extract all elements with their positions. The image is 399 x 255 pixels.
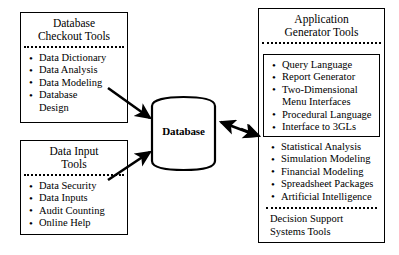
- list-item: Report Generator: [272, 71, 377, 83]
- list-item: Audit Counting: [29, 205, 125, 217]
- list-item: Two-Dimensional: [272, 84, 377, 96]
- list-item: Procedural Language: [272, 109, 377, 121]
- list-item-continuation: Design: [29, 102, 125, 114]
- diagram-canvas: Database Checkout Tools Data Dictionary …: [0, 0, 399, 255]
- database-cylinder-label: Database: [150, 125, 217, 137]
- list-item: Data Inputs: [29, 192, 125, 204]
- list-item: Interface to 3GLs: [272, 121, 377, 133]
- database-checkout-tools-list: Data Dictionary Data Analysis Data Model…: [21, 48, 127, 117]
- list-item: Spreadsheet Packages: [271, 178, 378, 190]
- decision-support-systems-label: Decision Support Systems Tools: [263, 209, 380, 240]
- database-checkout-tools-title: Database Checkout Tools: [21, 13, 127, 46]
- list-item: Data Security: [29, 180, 125, 192]
- arrow-database-to-appgen: [221, 122, 258, 136]
- decision-support-list-section: Statistical Analysis Simulation Modeling…: [263, 137, 380, 206]
- application-generator-tools-box: Application Generator Tools Query Langua…: [258, 8, 385, 243]
- list-item: Data Analysis: [29, 64, 125, 76]
- database-cylinder: Database: [150, 95, 217, 172]
- application-generator-list: Query Language Report Generator Two-Dime…: [264, 55, 379, 136]
- arrow-appgen-entry: [241, 129, 259, 136]
- analysis-tools-list: Statistical Analysis Simulation Modeling…: [263, 137, 380, 206]
- decision-support-systems-footer: Decision Support Systems Tools: [263, 207, 380, 240]
- data-input-tools-box: Data Input Tools Data Security Data Inpu…: [20, 140, 128, 235]
- list-item: Statistical Analysis: [271, 141, 378, 153]
- list-item: Simulation Modeling: [271, 153, 378, 165]
- list-item: Financial Modeling: [271, 166, 378, 178]
- application-generator-tools-title: Application Generator Tools: [259, 9, 384, 42]
- data-input-tools-title: Data Input Tools: [21, 141, 127, 174]
- application-generator-inner-box: Query Language Report Generator Two-Dime…: [263, 54, 380, 137]
- list-item: Query Language: [272, 59, 377, 71]
- list-item: Database: [29, 89, 125, 101]
- list-item: Artificial Intelligence: [271, 191, 378, 203]
- list-item-continuation: Menu Interfaces: [272, 96, 377, 108]
- database-checkout-tools-box: Database Checkout Tools Data Dictionary …: [20, 12, 128, 123]
- dotted-divider: [262, 42, 381, 44]
- data-input-tools-list: Data Security Data Inputs Audit Counting…: [21, 176, 127, 233]
- list-item: Data Dictionary: [29, 52, 125, 64]
- list-item: Online Help: [29, 217, 125, 229]
- list-item: Data Modeling: [29, 77, 125, 89]
